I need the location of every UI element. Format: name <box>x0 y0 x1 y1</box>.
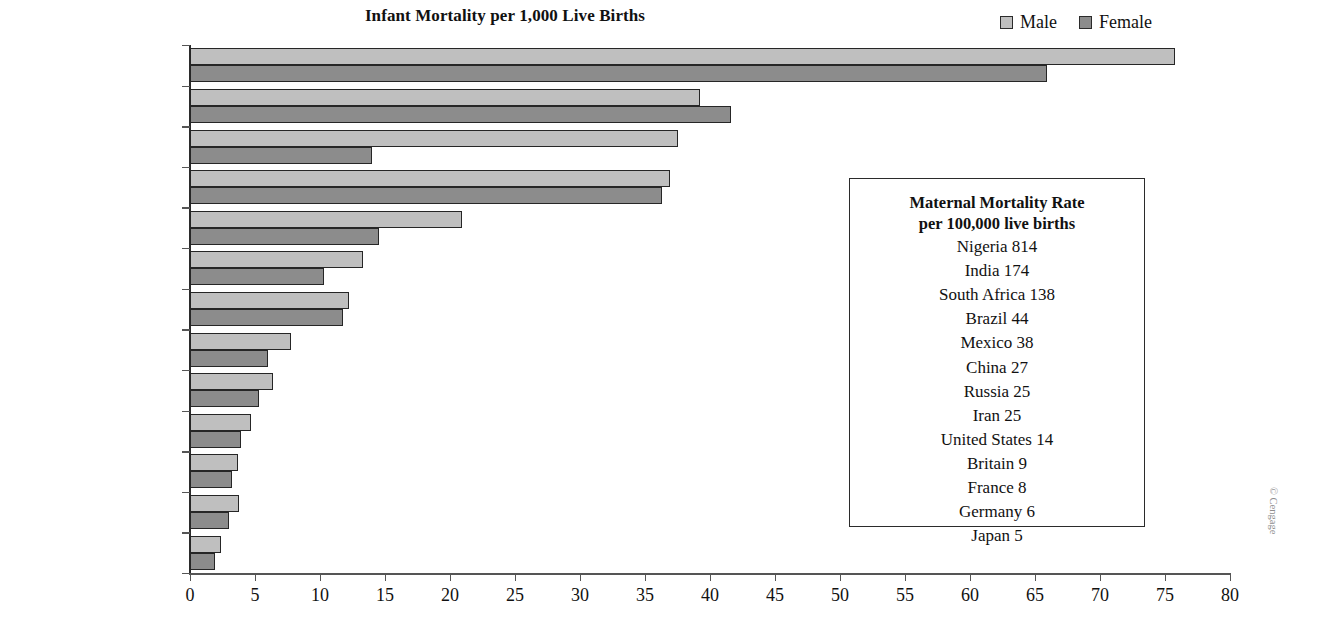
y-axis-tick <box>182 492 190 493</box>
info-box-title-line1: Maternal Mortality Rate <box>850 192 1144 213</box>
x-axis-tick-label: 55 <box>896 585 914 606</box>
x-axis-tick-label: 45 <box>766 585 784 606</box>
bar-male[interactable] <box>190 89 700 106</box>
bar-male[interactable] <box>190 48 1175 65</box>
info-box-row: Japan 5 <box>850 524 1144 548</box>
bar-male[interactable] <box>190 130 678 147</box>
x-axis-tick-label: 10 <box>311 585 329 606</box>
x-axis-tick <box>905 573 906 581</box>
x-axis-tick <box>515 573 516 581</box>
x-axis-tick-label: 75 <box>1156 585 1174 606</box>
x-axis-tick <box>970 573 971 581</box>
y-axis-tick <box>182 289 190 290</box>
x-axis-tick <box>320 573 321 581</box>
x-axis-tick <box>1100 573 1101 581</box>
x-axis-tick-label: 60 <box>961 585 979 606</box>
info-box-title-line2: per 100,000 live births <box>850 213 1144 234</box>
bar-female[interactable] <box>190 350 268 367</box>
bar-female[interactable] <box>190 228 379 245</box>
y-axis-tick <box>182 207 190 208</box>
x-axis-tick-label: 25 <box>506 585 524 606</box>
maternal-mortality-info-box: Maternal Mortality Rate per 100,000 live… <box>849 178 1145 527</box>
y-axis-tick <box>182 126 190 127</box>
x-axis-tick-label: 65 <box>1026 585 1044 606</box>
x-axis-tick <box>775 573 776 581</box>
bar-female[interactable] <box>190 147 372 164</box>
bar-male[interactable] <box>190 170 670 187</box>
bar-female[interactable] <box>190 512 229 529</box>
x-axis-tick <box>385 573 386 581</box>
x-axis-tick-label: 50 <box>831 585 849 606</box>
bar-male[interactable] <box>190 454 238 471</box>
x-axis-tick-label: 20 <box>441 585 459 606</box>
x-axis-tick <box>1165 573 1166 581</box>
bar-male[interactable] <box>190 536 221 553</box>
info-box-row: Brazil 44 <box>850 307 1144 331</box>
y-axis-tick <box>182 329 190 330</box>
info-box-row: France 8 <box>850 476 1144 500</box>
x-axis-tick <box>580 573 581 581</box>
y-axis-tick <box>182 451 190 452</box>
legend-swatch-male <box>1000 16 1013 29</box>
copyright-credit: © Cengage <box>1268 487 1279 534</box>
x-axis-tick-label: 70 <box>1091 585 1109 606</box>
bar-male[interactable] <box>190 414 251 431</box>
info-box-row: Mexico 38 <box>850 331 1144 355</box>
bar-male[interactable] <box>190 333 291 350</box>
x-axis-tick <box>840 573 841 581</box>
bar-male[interactable] <box>190 373 273 390</box>
x-axis-tick-label: 15 <box>376 585 394 606</box>
x-axis-tick <box>645 573 646 581</box>
bar-female[interactable] <box>190 268 324 285</box>
legend-label-male: Male <box>1020 12 1057 33</box>
bar-female[interactable] <box>190 431 241 448</box>
legend-label-female: Female <box>1099 12 1152 33</box>
info-box-row: Iran 25 <box>850 404 1144 428</box>
y-axis-tick <box>182 248 190 249</box>
x-axis-tick-label: 35 <box>636 585 654 606</box>
bar-female[interactable] <box>190 390 259 407</box>
y-axis-tick <box>182 411 190 412</box>
bar-male[interactable] <box>190 495 239 512</box>
legend-item-male[interactable]: Male <box>1000 12 1057 33</box>
y-axis-tick <box>182 45 190 46</box>
info-box-row: India 174 <box>850 259 1144 283</box>
y-axis-tick <box>182 573 190 574</box>
x-axis-tick <box>1230 573 1231 581</box>
x-axis-tick <box>255 573 256 581</box>
bar-female[interactable] <box>190 65 1047 82</box>
x-axis-tick-label: 40 <box>701 585 719 606</box>
x-axis-tick-label: 30 <box>571 585 589 606</box>
x-axis-tick-label: 0 <box>186 585 195 606</box>
info-box-row: China 27 <box>850 356 1144 380</box>
bar-male[interactable] <box>190 211 462 228</box>
y-axis-tick <box>182 532 190 533</box>
chart-legend: Male Female <box>1000 12 1152 33</box>
bar-female[interactable] <box>190 187 662 204</box>
bar-male[interactable] <box>190 251 363 268</box>
bar-female[interactable] <box>190 553 215 570</box>
x-axis-tick <box>190 573 191 581</box>
x-axis-tick <box>710 573 711 581</box>
y-axis-tick <box>182 167 190 168</box>
legend-swatch-female <box>1079 16 1092 29</box>
info-box-row: South Africa 138 <box>850 283 1144 307</box>
info-box-row: United States 14 <box>850 428 1144 452</box>
page-title: Infant Mortality per 1,000 Live Births <box>0 6 1010 26</box>
y-axis-tick <box>182 86 190 87</box>
x-axis-tick-label: 5 <box>251 585 260 606</box>
bar-female[interactable] <box>190 471 232 488</box>
x-axis-tick <box>450 573 451 581</box>
info-box-row: Russia 25 <box>850 380 1144 404</box>
info-box-row: Germany 6 <box>850 500 1144 524</box>
bar-female[interactable] <box>190 309 343 326</box>
chart-container: Infant Mortality per 1,000 Live Births M… <box>0 0 1324 632</box>
info-box-row: Nigeria 814 <box>850 235 1144 259</box>
y-axis-tick <box>182 370 190 371</box>
x-axis-tick <box>1035 573 1036 581</box>
info-box-rows: Nigeria 814India 174South Africa 138Braz… <box>850 235 1144 549</box>
bar-female[interactable] <box>190 106 731 123</box>
bar-male[interactable] <box>190 292 349 309</box>
x-axis-tick-label: 80 <box>1221 585 1239 606</box>
legend-item-female[interactable]: Female <box>1079 12 1152 33</box>
